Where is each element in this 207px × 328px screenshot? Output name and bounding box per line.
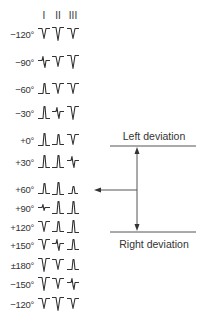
left-deviation-label: Left deviation xyxy=(123,130,185,142)
arrow-left-icon xyxy=(94,188,101,193)
arrow-down-icon xyxy=(135,224,140,231)
right-deviation-label: Right deviation xyxy=(119,238,188,250)
deviation-diagram xyxy=(0,0,207,328)
arrow-up-icon xyxy=(135,147,140,154)
